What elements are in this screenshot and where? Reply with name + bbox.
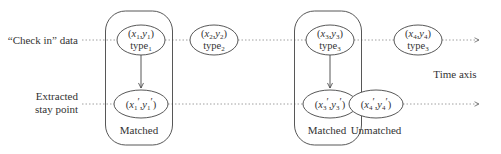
svg-text:(x3′,y3′): (x3′,y3′) [315, 96, 346, 112]
svg-text:(x4′,y4′): (x4′,y4′) [361, 96, 392, 112]
checkin-node-3: (x3,y3) type3 [306, 25, 354, 55]
stay-row-label-line2: stay point [35, 103, 78, 115]
svg-text:(x1′,y1′): (x1′,y1′) [126, 96, 157, 112]
checkin-node-4: (x4,y4) type3 [394, 25, 442, 55]
checkin-node-2: (x2,y2) type2 [190, 25, 238, 55]
checkin-stay-point-matching-diagram: “Check in” data Extracted stay point (x1… [0, 0, 501, 154]
matched-label-1: Matched [120, 124, 159, 136]
stay-point-node-1: (x1′,y1′) [114, 90, 168, 118]
time-axis-label: Time axis [433, 68, 476, 80]
checkin-node-1: (x1,y1) type1 [117, 25, 165, 55]
stay-row-label-line1: Extracted [36, 90, 79, 102]
unmatched-label: Unmatched [351, 124, 402, 136]
stay-point-node-4: (x4′,y4′) [349, 90, 403, 118]
checkin-row-label: “Check in” data [8, 34, 78, 46]
matched-label-2: Matched [308, 124, 347, 136]
